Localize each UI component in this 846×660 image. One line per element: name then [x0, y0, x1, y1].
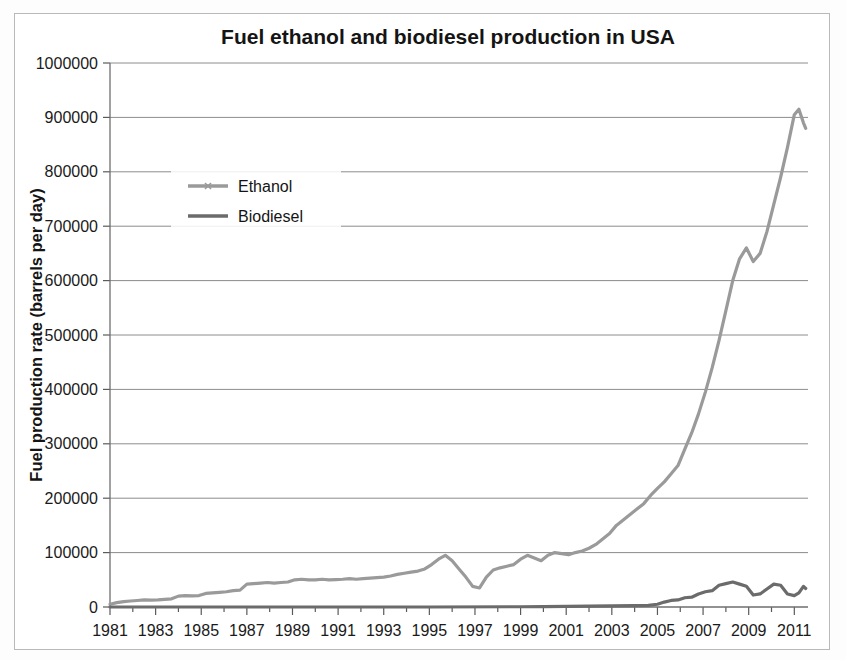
x-tick-label-2005: 2005	[640, 622, 676, 639]
y-tick-label-0: 0	[89, 599, 98, 616]
x-axis-ticks-group: 1981198319851987198919911993199519971999…	[92, 607, 811, 639]
x-tick-label-1985: 1985	[183, 622, 219, 639]
series-line-biodiesel	[110, 582, 806, 607]
y-tick-label-100000: 100000	[45, 544, 98, 561]
y-axis-label: Fuel production rate (barrels per day)	[27, 188, 45, 481]
chart-title: Fuel ethanol and biodiesel production in…	[221, 25, 675, 48]
y-tick-label-500000: 500000	[45, 327, 98, 344]
x-tick-label-1981: 1981	[92, 622, 128, 639]
x-tick-label-2001: 2001	[548, 622, 584, 639]
chart-figure: 0100000200000300000400000500000600000700…	[0, 0, 846, 660]
y-tick-label-900000: 900000	[45, 109, 98, 126]
x-tick-label-1993: 1993	[366, 622, 402, 639]
x-tick-label-1995: 1995	[412, 622, 448, 639]
y-tick-label-700000: 700000	[45, 218, 98, 235]
x-tick-label-2003: 2003	[594, 622, 630, 639]
gridlines-group	[110, 63, 808, 553]
y-axis-ticks-group: 0100000200000300000400000500000600000700…	[36, 55, 110, 616]
x-tick-label-2007: 2007	[685, 622, 721, 639]
y-tick-label-400000: 400000	[45, 381, 98, 398]
x-tick-label-1989: 1989	[275, 622, 311, 639]
x-tick-label-1999: 1999	[503, 622, 539, 639]
chart-canvas: 0100000200000300000400000500000600000700…	[0, 0, 846, 660]
y-tick-label-1000000: 1000000	[36, 55, 98, 72]
x-tick-label-1997: 1997	[457, 622, 493, 639]
x-tick-label-1991: 1991	[320, 622, 356, 639]
legend-label-ethanol: Ethanol	[238, 178, 292, 195]
x-tick-label-2009: 2009	[731, 622, 767, 639]
x-tick-label-1987: 1987	[229, 622, 265, 639]
y-tick-label-200000: 200000	[45, 490, 98, 507]
y-tick-label-800000: 800000	[45, 163, 98, 180]
chart-legend: Ethanol Biodiesel	[171, 171, 341, 228]
y-tick-label-600000: 600000	[45, 272, 98, 289]
x-tick-label-2011: 2011	[777, 622, 812, 639]
x-tick-label-1983: 1983	[138, 622, 174, 639]
legend-label-biodiesel: Biodiesel	[238, 208, 303, 225]
y-tick-label-300000: 300000	[45, 435, 98, 452]
